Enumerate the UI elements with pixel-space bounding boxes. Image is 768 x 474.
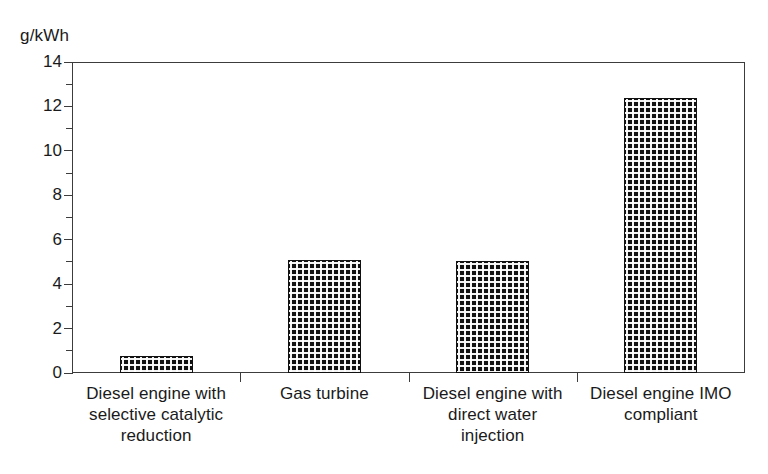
x-axis-category-label: Diesel engine withselective catalyticred… xyxy=(72,383,240,446)
y-axis-minor-tick xyxy=(66,84,73,85)
y-axis-major-tick xyxy=(64,150,73,151)
y-axis-major-tick xyxy=(64,373,73,374)
x-axis-category-tick xyxy=(240,373,241,382)
y-axis-tick-label: 4 xyxy=(53,275,62,292)
y-axis-major-tick xyxy=(64,62,73,63)
y-axis-major-tick xyxy=(64,239,73,240)
y-axis-minor-tick xyxy=(66,261,73,262)
y-axis-major-tick xyxy=(64,195,73,196)
x-axis-category-tick xyxy=(409,373,410,382)
bar xyxy=(624,98,697,373)
bar-chart-figure: g/kWh 02468101214 Diesel engine withsele… xyxy=(0,0,768,474)
y-axis-tick-label: 10 xyxy=(43,142,62,159)
y-axis-tick-label: 12 xyxy=(43,97,62,114)
y-axis-tick-label: 6 xyxy=(53,231,62,248)
category-label-line: Diesel engine IMO xyxy=(577,383,745,404)
x-axis-category-tick xyxy=(577,373,578,382)
y-axis-minor-tick xyxy=(66,128,73,129)
bar xyxy=(120,356,193,373)
category-label-line: Diesel engine with xyxy=(72,383,240,404)
y-axis-minor-tick xyxy=(66,350,73,351)
y-axis-minor-tick xyxy=(66,173,73,174)
y-axis-major-tick xyxy=(64,106,73,107)
category-label-line: selective catalytic xyxy=(72,404,240,425)
category-label-line: compliant xyxy=(577,404,745,425)
x-axis-category-label: Diesel engine withdirect waterinjection xyxy=(409,383,577,446)
category-label-line: injection xyxy=(409,425,577,446)
y-axis-tick-label: 14 xyxy=(43,53,62,70)
y-axis-minor-tick xyxy=(66,217,73,218)
y-axis-major-tick xyxy=(64,284,73,285)
y-axis-minor-tick xyxy=(66,306,73,307)
y-axis-tick-label: 2 xyxy=(53,320,62,337)
bar xyxy=(456,261,529,373)
category-label-line: direct water xyxy=(409,404,577,425)
category-label-line: Gas turbine xyxy=(240,383,408,404)
x-axis-category-label: Diesel engine IMOcompliant xyxy=(577,383,745,425)
y-axis-major-tick xyxy=(64,328,73,329)
y-axis-tick-label: 0 xyxy=(53,364,62,381)
y-axis-tick-label: 8 xyxy=(53,186,62,203)
y-axis-unit-label: g/kWh xyxy=(20,26,69,46)
x-axis-category-label: Gas turbine xyxy=(240,383,408,404)
category-label-line: reduction xyxy=(72,425,240,446)
bar xyxy=(288,260,361,373)
category-label-line: Diesel engine with xyxy=(409,383,577,404)
